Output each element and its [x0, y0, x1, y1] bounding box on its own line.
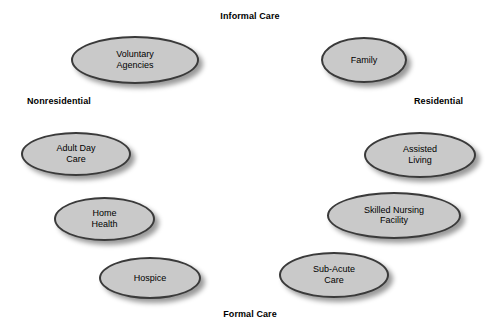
node-label-home-health: Home Health — [91, 208, 117, 230]
node-label-assisted-living: Assisted Living — [403, 144, 437, 166]
axis-label-residential: Residential — [414, 96, 463, 107]
node-skilled-nursing-facility[interactable]: Skilled Nursing Facility — [327, 192, 461, 239]
node-label-skilled-nursing-facility: Skilled Nursing Facility — [364, 205, 424, 227]
node-assisted-living[interactable]: Assisted Living — [364, 132, 476, 178]
node-sub-acute-care[interactable]: Sub-Acute Care — [279, 252, 389, 298]
node-family[interactable]: Family — [321, 37, 407, 83]
axis-label-formal-care: Formal Care — [223, 309, 277, 320]
axis-label-nonresidential: Nonresidential — [27, 96, 91, 107]
node-voluntary-agencies[interactable]: Voluntary Agencies — [71, 36, 199, 84]
node-home-health[interactable]: Home Health — [54, 197, 155, 241]
axis-label-informal-care: Informal Care — [220, 11, 279, 22]
node-hospice[interactable]: Hospice — [99, 257, 201, 299]
node-label-sub-acute-care: Sub-Acute Care — [313, 264, 355, 286]
node-label-hospice: Hospice — [134, 273, 167, 284]
continuum-of-care-diagram: Informal CareNonresidentialResidentialFo… — [0, 0, 495, 330]
node-label-voluntary-agencies: Voluntary Agencies — [116, 49, 154, 71]
node-label-adult-day-care: Adult Day Care — [56, 143, 95, 165]
node-adult-day-care[interactable]: Adult Day Care — [21, 132, 131, 176]
node-label-family: Family — [351, 55, 378, 66]
